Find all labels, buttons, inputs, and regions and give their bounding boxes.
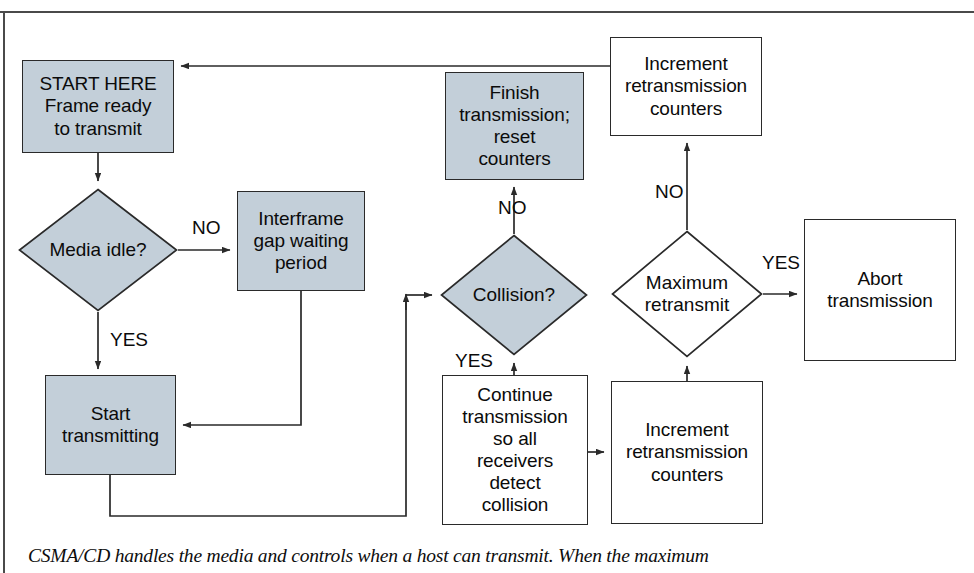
node-start-transmitting-label: Start transmitting bbox=[59, 403, 162, 447]
edge-label-media-idle-no: NO bbox=[192, 218, 221, 237]
edge-label-max-retransmit-no: NO bbox=[655, 182, 684, 201]
node-abort-transmission-label: Abort transmission bbox=[824, 268, 935, 312]
figure-caption: CSMA/CD handles the media and controls w… bbox=[28, 545, 948, 567]
node-increment-counters-bottom[interactable]: Increment retransmission counters bbox=[611, 381, 763, 524]
node-collision[interactable]: Collision? bbox=[440, 234, 588, 356]
node-start-here[interactable]: START HERE Frame ready to transmit bbox=[22, 60, 174, 153]
node-start-transmitting[interactable]: Start transmitting bbox=[45, 375, 176, 475]
node-continue-transmission[interactable]: Continue transmission so all receivers d… bbox=[442, 375, 588, 525]
node-increment-counters-top-label: Increment retransmission counters bbox=[622, 53, 750, 119]
node-interframe-gap-label: Interframe gap waiting period bbox=[250, 208, 351, 274]
node-finish-transmission[interactable]: Finish transmission; reset counters bbox=[445, 72, 584, 180]
figure-canvas: START HERE Frame ready to transmit Inter… bbox=[0, 0, 974, 573]
edge-label-media-idle-yes: YES bbox=[110, 330, 148, 349]
node-media-idle-label: Media idle? bbox=[18, 188, 178, 312]
node-start-here-label: START HERE Frame ready to transmit bbox=[36, 73, 159, 139]
edge-label-max-retransmit-yes: YES bbox=[762, 253, 800, 272]
node-increment-counters-top[interactable]: Increment retransmission counters bbox=[610, 37, 762, 136]
node-increment-counters-bottom-label: Increment retransmission counters bbox=[623, 419, 751, 485]
node-max-retransmit-label: Maximum retransmit bbox=[611, 230, 763, 358]
node-finish-transmission-label: Finish transmission; reset counters bbox=[456, 82, 573, 170]
edge-label-collision-yes: YES bbox=[455, 351, 493, 370]
node-continue-transmission-label: Continue transmission so all receivers d… bbox=[459, 384, 570, 516]
node-interframe-gap[interactable]: Interframe gap waiting period bbox=[237, 191, 365, 291]
edge-interframe-to-start-transmitting bbox=[183, 291, 301, 425]
node-media-idle[interactable]: Media idle? bbox=[18, 188, 178, 312]
edge-label-collision-no: NO bbox=[498, 198, 527, 217]
node-abort-transmission[interactable]: Abort transmission bbox=[804, 219, 956, 361]
node-collision-label: Collision? bbox=[440, 234, 588, 356]
node-max-retransmit[interactable]: Maximum retransmit bbox=[611, 230, 763, 358]
